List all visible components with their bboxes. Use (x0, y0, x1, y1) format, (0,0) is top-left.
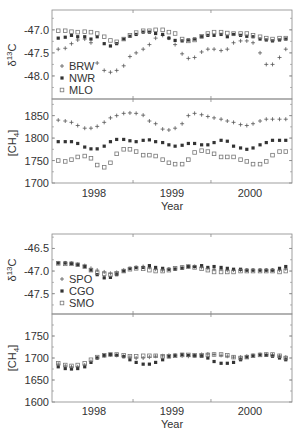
y-tick-label: 1700 (25, 352, 49, 364)
x-tick-2000-top: 2000 (238, 187, 262, 199)
y-tick-label: -47.0 (24, 265, 49, 277)
x-tick-1998-bottom: 1998 (82, 405, 106, 417)
x-axis-label-top: Year (161, 200, 184, 212)
panel-top-CH4: 1850180017501700[CH4] (6, 99, 292, 189)
y-tick-label: -47.5 (24, 47, 49, 59)
y-tick-label: -48.0 (24, 70, 49, 82)
y-tick-label: -46.5 (24, 242, 49, 254)
series-mlo (56, 148, 287, 170)
series-nwr (57, 31, 288, 48)
x-tick-1998-top: 1998 (82, 187, 106, 199)
figure: -47.0-47.5-48.0δ13CBRWNWRMLO185018001750… (0, 0, 301, 434)
y-tick-label: 1700 (25, 177, 49, 189)
y-axis-label: δ13C (5, 258, 18, 281)
y-tick-label: 1850 (25, 110, 49, 122)
series-brw (56, 111, 288, 132)
y-axis-label: [CH4] (6, 130, 21, 156)
legend-label-mlo: MLO (69, 84, 93, 96)
legend: SPOCGOSMO (60, 273, 95, 309)
y-tick-label: -47.0 (24, 24, 49, 36)
legend-label-smo: SMO (69, 297, 95, 309)
x-tick-2000-bottom: 2000 (238, 405, 262, 417)
y-tick-label: 1750 (25, 330, 49, 342)
legend-label-cgo: CGO (69, 285, 95, 297)
x-tick-1999-top: 1999 (160, 187, 184, 199)
x-axis-label-bottom: Year (161, 418, 184, 430)
panel-bottom-CH4: 1750170016501600[CH4] (6, 314, 292, 408)
plot-frame (52, 99, 292, 183)
legend-label-brw: BRW (69, 60, 95, 72)
legend: BRWNWRMLO (60, 60, 95, 96)
y-tick-label: 1650 (25, 374, 49, 386)
panel-top-d13C: -47.0-47.5-48.0δ13CBRWNWRMLO (5, 10, 292, 99)
y-tick-label: 1600 (25, 396, 49, 408)
plot-frame (52, 314, 292, 402)
y-tick-label: 1800 (25, 132, 49, 144)
legend-label-spo: SPO (69, 273, 93, 285)
y-tick-label: -47.5 (24, 288, 49, 300)
y-axis-label: δ13C (5, 43, 18, 66)
legend-label-nwr: NWR (69, 72, 95, 84)
x-tick-1999-bottom: 1999 (160, 405, 184, 417)
series-nwr (57, 138, 288, 151)
y-axis-label: [CH4] (6, 345, 21, 371)
panel-bottom-d13C: -46.5-47.0-47.5δ13CSPOCGOSMO (5, 234, 292, 314)
y-tick-label: 1750 (25, 155, 49, 167)
